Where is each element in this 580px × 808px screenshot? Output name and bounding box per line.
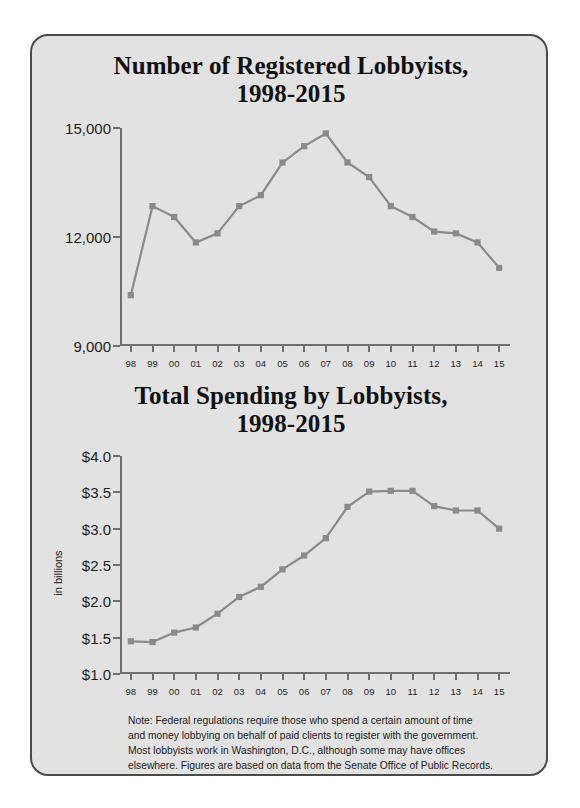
chart1-x-tick-mark (238, 346, 240, 352)
chart1-x-tick-label: 12 (429, 358, 440, 369)
chart1-x-tick-mark (455, 346, 457, 352)
chart2-series (120, 456, 510, 674)
chart1-x-tick-label: 00 (169, 358, 180, 369)
chart2-x-tick-label: 09 (364, 686, 375, 697)
chart1-x-tick-mark (433, 346, 435, 352)
chart2-x-tick-mark (238, 674, 240, 680)
chart2-y-tick-mark (113, 491, 120, 493)
chart2-y-tick-mark (113, 528, 120, 530)
chart1-x-tick-mark (477, 346, 479, 352)
chart1-y-tick-mark (113, 127, 120, 129)
chart1-x-tick-mark (325, 346, 327, 352)
chart1-subtitle: 1998-2015 (32, 80, 548, 108)
chart2-plot-area: $1.0$1.5$2.0$2.5$3.0$3.5$4.0 98990001020… (120, 456, 510, 674)
chart1-data-point (279, 159, 285, 165)
chart2-line (131, 491, 499, 642)
chart1-x-tick-label: 11 (408, 358, 418, 369)
chart1-y-tick-label: 12,000 (65, 229, 120, 246)
chart1-y-tick-mark (113, 345, 120, 347)
chart2-title: Total Spending by Lobbyists, (32, 382, 548, 410)
chart1-data-point (193, 239, 199, 245)
chart2-x-tick-label: 00 (169, 686, 180, 697)
chart2-x-tick-label: 01 (191, 686, 202, 697)
footnote-line-3: Most lobbyists work in Washington, D.C.,… (128, 744, 528, 759)
chart2-data-point (388, 488, 394, 494)
chart2-x-tick-label: 04 (256, 686, 267, 697)
chart2-x-tick-mark (195, 674, 197, 680)
chart1-data-point (258, 192, 264, 198)
chart2-data-point (431, 503, 437, 509)
chart1-x-tick-label: 13 (451, 358, 462, 369)
chart1-x-tick-mark (412, 346, 414, 352)
chart2-x-tick-label: 12 (429, 686, 440, 697)
chart1-x-tick-label: 04 (256, 358, 267, 369)
chart1-data-point (171, 214, 177, 220)
chart2-x-tick-mark (412, 674, 414, 680)
chart1-data-point (453, 230, 459, 236)
chart1-data-point (409, 214, 415, 220)
chart1-x-tick-mark (173, 346, 175, 352)
chart2-data-point (453, 507, 459, 513)
chart2-x-tick-mark (130, 674, 132, 680)
infographic-card: Number of Registered Lobbyists, 1998-201… (30, 34, 548, 776)
chart1-data-point (128, 292, 134, 298)
chart2-x-tick-mark (303, 674, 305, 680)
chart1-x-tick-label: 06 (299, 358, 310, 369)
chart1-x-tick-label: 14 (472, 358, 483, 369)
chart2-y-axis-title: in billions (52, 550, 64, 595)
chart2-x-tick-label: 13 (451, 686, 462, 697)
chart1-x-tick-mark (498, 346, 500, 352)
chart2-x-tick-mark (260, 674, 262, 680)
chart2-x-tick-label: 08 (342, 686, 353, 697)
chart2-x-tick-mark (347, 674, 349, 680)
chart1-x-tick-label: 07 (321, 358, 332, 369)
chart2-data-point (474, 507, 480, 513)
chart1-x-tick-label: 08 (342, 358, 353, 369)
chart1-x-tick-mark (390, 346, 392, 352)
chart1-series (120, 128, 510, 346)
chart2-data-point (258, 584, 264, 590)
chart2-x-tick-label: 14 (472, 686, 483, 697)
chart1-data-point (431, 228, 437, 234)
chart2-x-tick-mark (433, 674, 435, 680)
chart2-x-tick-mark (390, 674, 392, 680)
chart2-x-tick-label: 07 (321, 686, 332, 697)
chart2-x-tick-mark (325, 674, 327, 680)
chart2-x-tick-label: 05 (277, 686, 288, 697)
chart1-data-point (323, 130, 329, 136)
chart1-x-tick-mark (152, 346, 154, 352)
chart2-y-tick-mark (113, 600, 120, 602)
chart2-y-tick-mark (113, 564, 120, 566)
chart1-x-tick-mark (195, 346, 197, 352)
chart1-plot-area: 9,00012,00015,000 9899000102030405060708… (120, 128, 510, 346)
chart2-x-tick-mark (477, 674, 479, 680)
chart2-data-point (171, 629, 177, 635)
chart1-x-tick-label: 09 (364, 358, 375, 369)
chart2-data-point (236, 594, 242, 600)
chart2-x-tick-label: 15 (494, 686, 505, 697)
chart2-data-point (301, 552, 307, 558)
chart1-x-tick-label: 98 (126, 358, 137, 369)
chart-registered-lobbyists: 9,00012,00015,000 9899000102030405060708… (32, 120, 548, 370)
chart1-data-point (474, 239, 480, 245)
chart1-x-tick-label: 02 (212, 358, 223, 369)
chart1-x-tick-label: 10 (386, 358, 397, 369)
chart1-x-tick-mark (130, 346, 132, 352)
chart2-x-tick-mark (498, 674, 500, 680)
chart-total-spending: in billions $1.0$1.5$2.0$2.5$3.0$3.5$4.0… (32, 448, 548, 698)
chart1-data-point (496, 265, 502, 271)
chart1-x-tick-label: 01 (191, 358, 202, 369)
chart2-x-tick-label: 98 (126, 686, 137, 697)
chart2-data-point (279, 566, 285, 572)
chart2-y-tick-mark (113, 637, 120, 639)
chart1-x-tick-label: 03 (234, 358, 245, 369)
chart2-subtitle: 1998-2015 (32, 410, 548, 438)
chart1-data-point (214, 230, 220, 236)
chart1-data-point (344, 159, 350, 165)
chart1-x-tick-mark (347, 346, 349, 352)
chart1-y-tick-mark (113, 236, 120, 238)
chart1-x-tick-mark (368, 346, 370, 352)
chart1-data-point (301, 143, 307, 149)
chart2-data-point (409, 488, 415, 494)
chart1-x-tick-label: 15 (494, 358, 505, 369)
